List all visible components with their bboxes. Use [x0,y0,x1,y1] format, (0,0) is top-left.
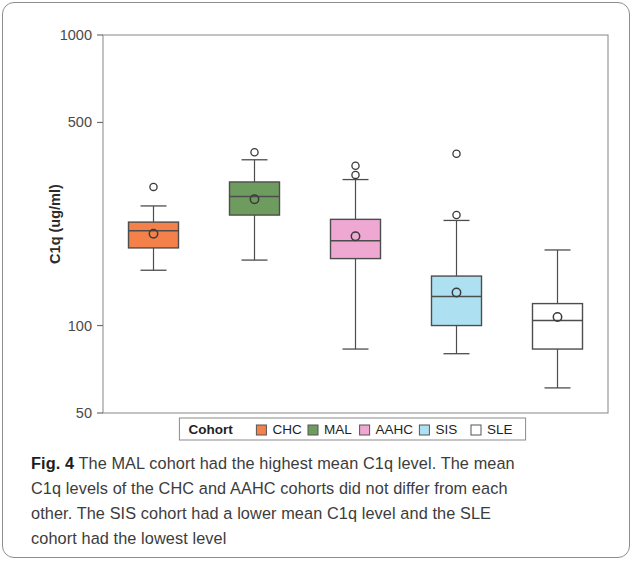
boxplot-svg: 100050010050C1q (ug/ml) CohortCHCMALAAHC… [3,3,631,441]
box-plot-sle [533,250,583,388]
legend-swatch-sis [419,425,429,435]
box [230,182,280,215]
box-plot-aahc [331,162,381,349]
caption-line: cohort had the lowest level [31,526,609,551]
outlier-point [352,162,359,169]
caption-text: The MAL cohort had the highest mean C1q … [31,454,609,551]
box-plot-sis [432,150,482,353]
box [331,219,381,258]
legend-label-mal: MAL [324,422,352,437]
y-axis-tick-label: 500 [68,114,92,130]
legend-layer: CohortCHCMALAAHCSISSLE [179,418,525,440]
legend-swatch-mal [308,425,318,435]
box [129,222,179,248]
figure-caption: Fig. 4 The MAL cohort had the highest me… [31,451,609,551]
legend-label-sis: SIS [435,422,457,437]
legend-swatch-chc [256,425,266,435]
boxes-layer [129,149,583,388]
y-axis-tick-label: 50 [76,405,92,421]
caption-line: other. The SIS cohort had a lower mean C… [31,501,609,526]
boxplot-chart: 100050010050C1q (ug/ml) CohortCHCMALAAHC… [3,3,631,441]
figure-card: 100050010050C1q (ug/ml) CohortCHCMALAAHC… [2,2,630,558]
box-plot-mal [230,149,280,260]
outlier-point [453,211,460,218]
y-axis-tick-label: 100 [68,318,92,334]
figure-label: Fig. 4 [31,454,74,472]
outlier-point [251,149,258,156]
legend-label-chc: CHC [272,422,301,437]
caption-line: C1q levels of the CHC and AAHC cohorts d… [31,476,609,501]
box-plot-chc [129,183,179,270]
legend-label-aahc: AAHC [376,422,414,437]
caption-line: The MAL cohort had the highest mean C1q … [78,454,514,472]
box [533,304,583,349]
outlier-point [453,150,460,157]
y-axis-title: C1q (ug/ml) [47,184,63,264]
legend-label-sle: SLE [487,422,513,437]
y-axis-tick-label: 1000 [60,27,92,43]
legend-swatch-sle [471,425,481,435]
legend-title: Cohort [188,422,233,437]
outlier-point [352,171,359,178]
box [432,276,482,325]
legend-swatch-aahc [360,425,370,435]
outlier-point [150,183,157,190]
